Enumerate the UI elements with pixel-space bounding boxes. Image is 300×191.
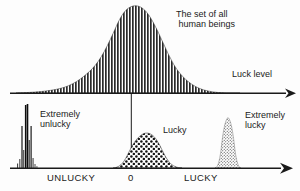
spike: [17, 164, 18, 169]
annotation-extremely-unlucky: Extremely unlucky: [40, 109, 80, 129]
bottom-axis-arrowhead: [280, 163, 293, 174]
axis-tick-label-unlucky: UNLUCKY: [47, 173, 95, 184]
spike: [23, 150, 24, 168]
annotation-lucky: Lucky: [163, 125, 187, 135]
axis-tick-label-lucky: LUCKY: [184, 173, 218, 184]
spike: [29, 140, 30, 168]
extremely-lucky-gaussian-area: [215, 118, 241, 169]
luck-distribution-figure: The set of all human beings Luck level E…: [0, 0, 300, 191]
luck-level-axis-arrowhead: [285, 88, 296, 98]
extremely-lucky-curve-group: [215, 118, 241, 169]
spike: [35, 164, 36, 168]
lucky-curve-group: [113, 133, 182, 168]
spike: [19, 159, 20, 168]
spike: [27, 104, 29, 168]
spike: [33, 158, 34, 168]
spike: [25, 105, 27, 168]
axis-tick-label-zero: 0: [128, 173, 134, 184]
lucky-gaussian-area: [113, 133, 182, 168]
spike: [21, 126, 22, 168]
extremely-unlucky-spikes-group: [17, 104, 37, 168]
axis-label-luck-level: Luck level: [232, 69, 272, 79]
annotation-set-of-all-human-beings: The set of all human beings: [176, 9, 235, 29]
distribution-plot-svg: [0, 0, 300, 191]
annotation-extremely-lucky: Extremely lucky: [245, 110, 285, 130]
spike: [31, 126, 32, 168]
